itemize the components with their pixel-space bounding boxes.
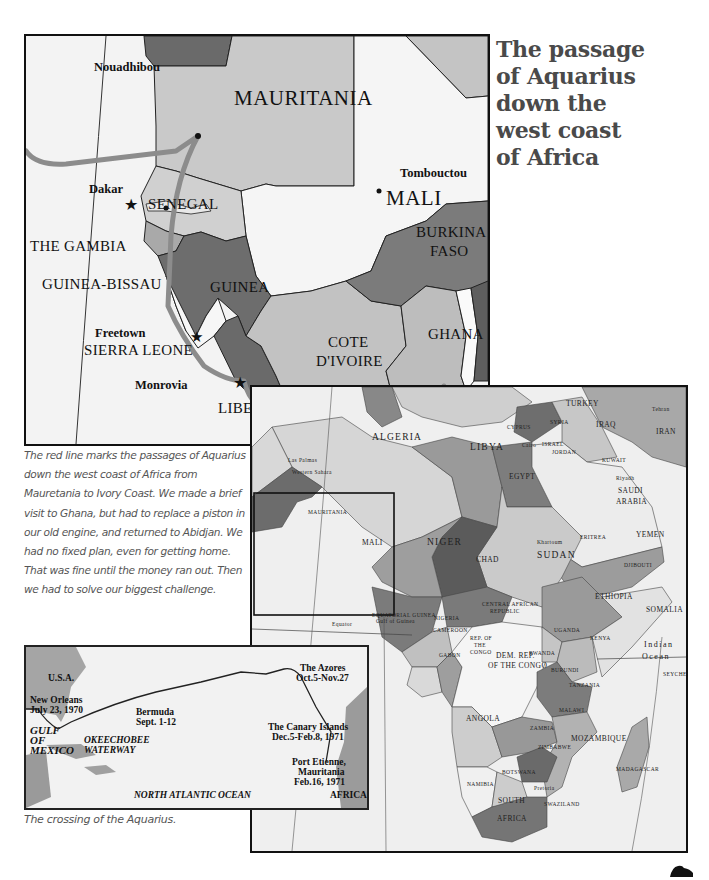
label-nouadhibou: Nouadhibou [94, 60, 160, 75]
label-las-palmas: Las Palmas [288, 457, 317, 463]
label-kuwait: KUWAIT [602, 457, 626, 463]
label-gulf-3: MEXICO [30, 745, 74, 756]
label-niger: NIGER [427, 537, 462, 547]
title-line: down the [496, 90, 706, 117]
label-port-1: Port Etienne, [292, 757, 346, 767]
label-new-orleans-2: July 23, 1970 [30, 705, 83, 715]
label-cameroon: CAMEROON [433, 627, 468, 633]
label-guinea: GUINEA [210, 279, 269, 296]
label-yemen: YEMEN [636, 530, 665, 539]
label-seychelles: SEYCHE [663, 671, 687, 677]
svg-text:★: ★ [124, 195, 138, 214]
label-riyadh: Riyadh [616, 475, 634, 481]
label-swaziland: SWAZILAND [544, 801, 580, 807]
label-mauritania: MAURITANIA [234, 86, 373, 111]
label-car-1: CENTRAL AFRICAN [482, 601, 538, 607]
label-canary-1: The Canary Islands [268, 722, 348, 732]
label-tombouctou: Tombouctou [400, 166, 467, 181]
label-africa: AFRICA [497, 814, 527, 823]
label-dakar: Dakar [89, 182, 123, 197]
label-port-2: Mauritania [298, 767, 344, 777]
label-eritrea: ERITREA [580, 534, 606, 540]
svg-text:★: ★ [233, 373, 247, 392]
label-mauritania-inset: MAURITANIA [308, 509, 347, 515]
label-egypt: EGYPT [509, 472, 535, 481]
label-azores-1: The Azores [300, 663, 345, 673]
title-line: The passage [496, 36, 706, 63]
label-north-atlantic: NORTH ATLANTIC OCEAN [134, 790, 251, 800]
title-line: of Aquarius [496, 63, 706, 90]
label-drc-2: OF THE CONGO [488, 661, 547, 670]
label-usa: U.S.A. [48, 673, 74, 683]
label-south: SOUTH [498, 796, 525, 805]
label-sudan: SUDAN [537, 550, 576, 560]
label-faso: FASO [430, 243, 468, 260]
label-khartoum: Khartoum [537, 539, 563, 545]
label-angola: ANGOLA [466, 714, 500, 723]
label-nigeria: NIGERIA [434, 615, 459, 621]
label-mozambique: MOZAMBIQUE [571, 734, 627, 743]
label-cyprus: CYPRUS [507, 424, 531, 430]
label-pretoria: Pretoria [534, 785, 555, 791]
label-okeechobee-2: WATERWAY [84, 745, 135, 755]
label-sierra-leone: SIERRA LEONE [84, 342, 193, 359]
label-rep-congo-1: REP. OF [470, 635, 492, 641]
label-gulf-guinea: Gulf of Guinea [376, 618, 415, 624]
label-burkina: BURKINA [416, 224, 486, 241]
label-ghana: GHANA [428, 326, 484, 343]
label-equator: Equator [332, 621, 352, 627]
title-line: west coast [496, 117, 706, 144]
article-title: The passage of Aquarius down the west co… [496, 36, 706, 171]
label-cote: COTE [328, 334, 368, 351]
label-azores-2: Oct.5-Nov.27 [296, 673, 349, 683]
label-namibia: NAMIBIA [467, 781, 494, 787]
label-cairo: Cairo [522, 442, 536, 448]
label-car-2: REPUBLIC [490, 608, 520, 614]
label-canary-2: Dec.5-Feb.8, 1971 [272, 732, 344, 742]
label-somalia: SOMALIA [646, 605, 683, 614]
label-senegal: SENEGAL [148, 196, 218, 213]
label-botswana: BOTSWANA [502, 769, 536, 775]
label-guinea-bissau: GUINEA-BISSAU [42, 276, 162, 293]
title-line: of Africa [496, 144, 706, 171]
label-rep-congo-2: THE [474, 642, 486, 648]
label-tehran: Tehran [652, 406, 670, 412]
label-madagascar: MADAGASCAR [616, 766, 659, 772]
label-turkey: TURKEY [566, 399, 599, 408]
label-iran: IRAN [656, 427, 676, 436]
label-monrovia: Monrovia [135, 378, 188, 393]
label-mali-inset: MALI [362, 538, 383, 547]
label-zimbabwe: ZIMBABWE [538, 744, 571, 750]
label-ethiopia: ETHIOPIA [595, 592, 633, 601]
map-caption: The red line marks the passages of Aquar… [24, 446, 256, 600]
crossing-caption: The crossing of the Aquarius. [24, 813, 176, 826]
label-rwanda: RWANDA [529, 650, 555, 656]
label-gambia: THE GAMBIA [30, 238, 127, 255]
label-freetown: Freetown [95, 326, 145, 341]
label-western-sahara: Western Sahara [292, 469, 332, 475]
label-tanzania: TANZANIA [569, 682, 600, 688]
label-indian: Indian [644, 640, 673, 649]
atlantic-crossing-map: U.S.A. New Orleans July 23, 1970 GULF OF… [24, 645, 369, 810]
label-bermuda-1: Bermuda [136, 707, 174, 717]
label-uganda: UGANDA [554, 627, 580, 633]
label-ocean: Ocean [642, 652, 670, 661]
label-africa-atl: AFRICA [330, 790, 367, 800]
label-rep-congo-3: CONGO [470, 649, 492, 655]
label-bermuda-2: Sept. 1-12 [136, 717, 176, 727]
label-libya: LIBYA [470, 442, 504, 452]
label-okeechobee-1: OKEECHOBEE [84, 735, 149, 745]
label-gabon: GABON [439, 652, 461, 658]
label-port-3: Feb.16, 1971 [294, 777, 345, 787]
label-divoire: D'IVOIRE [316, 353, 383, 370]
label-syria: SYRIA [550, 419, 569, 425]
label-iraq: IRAQ [596, 420, 616, 429]
label-chad: CHAD [476, 555, 499, 564]
label-mali: MALI [386, 186, 442, 211]
label-zambia: ZAMBIA [530, 725, 554, 731]
decorative-blob-icon [668, 862, 694, 874]
label-israel: ISRAEL [542, 441, 564, 447]
label-jordan: JORDAN [552, 449, 576, 455]
label-saudi: SAUDI [618, 486, 643, 495]
label-new-orleans-1: New Orleans [30, 695, 83, 705]
